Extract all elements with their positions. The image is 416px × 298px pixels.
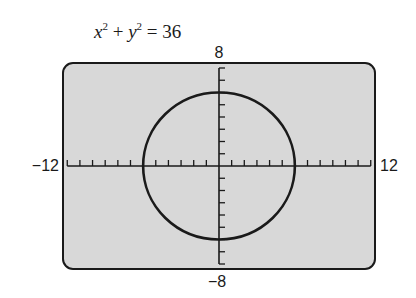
equation-title: x2 + y2 = 36 xyxy=(93,20,181,42)
graph-figure: x2 + y2 = 36 8 −8 −12 12 xyxy=(0,0,416,298)
y-min-label: −8 xyxy=(208,273,226,290)
x-min-label: −12 xyxy=(32,157,59,174)
y-max-label: 8 xyxy=(215,44,224,61)
x-max-label: 12 xyxy=(380,157,398,174)
